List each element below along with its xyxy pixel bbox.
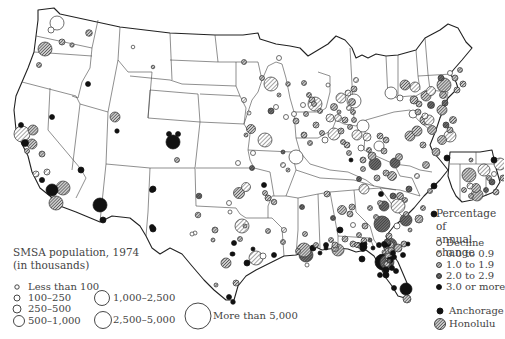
change-symbol-1-1.9 bbox=[437, 263, 442, 268]
anchorage-label: Anchorage bbox=[449, 305, 504, 317]
honolulu-label: Honolulu bbox=[449, 318, 495, 330]
change-label-3plus: 3.0 or more bbox=[446, 281, 505, 293]
change-symbol-2-2.9 bbox=[437, 274, 442, 279]
change-symbol-decline bbox=[437, 241, 442, 246]
change-symbol-3plus bbox=[437, 285, 442, 290]
honolulu-symbol bbox=[435, 319, 446, 330]
change-symbol-0-0.9 bbox=[437, 252, 442, 257]
anchorage-symbol bbox=[437, 308, 443, 314]
